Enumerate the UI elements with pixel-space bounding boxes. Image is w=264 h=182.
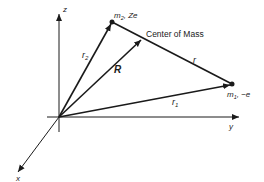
two-body-diagram: z y x r2 R r1 r m2, Ze m1, −e Center of …	[0, 0, 264, 182]
mass-m1-point	[230, 82, 235, 87]
x-axis-label: x	[15, 174, 21, 182]
vector-R-label: R	[114, 64, 122, 75]
center-of-mass-label: Center of Mass	[146, 29, 204, 39]
z-axis-label: z	[62, 5, 67, 14]
x-axis	[18, 117, 59, 172]
vector-r-label: r	[193, 55, 197, 65]
vector-r1	[59, 85, 230, 117]
mass-m2-label: m2, Ze	[114, 11, 138, 21]
vector-r2-label: r2	[82, 50, 89, 61]
mass-m2-point	[110, 20, 115, 25]
vector-r1-label: r1	[172, 97, 178, 108]
vector-R	[59, 40, 141, 117]
mass-m1-label: m1, −e	[227, 90, 251, 100]
vector-r2	[59, 24, 111, 117]
y-axis-label: y	[228, 122, 234, 131]
